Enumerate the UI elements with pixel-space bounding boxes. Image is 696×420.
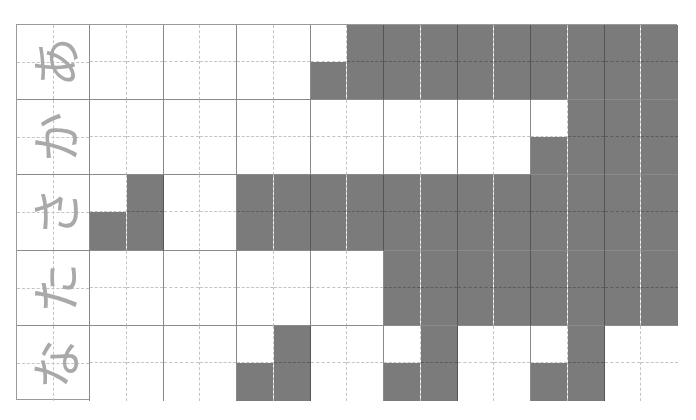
grid-cell <box>568 100 605 175</box>
shaded-subcell <box>531 175 567 212</box>
blank-subcell <box>274 288 310 325</box>
shaded-subcell <box>274 212 310 249</box>
grid-cell <box>421 175 458 250</box>
shaded-subcell <box>641 100 678 137</box>
blank-subcell <box>237 288 273 325</box>
grid-cell <box>311 251 348 326</box>
shaded-subcell <box>311 175 347 212</box>
shaded-subcell <box>347 62 383 99</box>
shaded-subcell <box>641 62 678 99</box>
blank-subcell <box>494 363 530 401</box>
grid-cell <box>458 25 495 100</box>
blank-subcell <box>164 288 200 325</box>
shaded-subcell <box>568 212 604 249</box>
grid-cell <box>531 175 568 250</box>
blank-subcell <box>458 326 494 364</box>
grid-cell <box>127 175 164 250</box>
blank-subcell <box>237 100 273 137</box>
blank-subcell <box>127 100 163 137</box>
grid-cell <box>347 100 384 175</box>
grid-cell <box>641 25 678 100</box>
blank-subcell <box>311 25 347 62</box>
blank-subcell <box>384 100 420 137</box>
shaded-subcell <box>384 288 420 325</box>
blank-subcell <box>200 25 236 62</box>
shaded-subcell <box>127 175 163 212</box>
grid-cell <box>458 175 495 250</box>
grid-cell <box>237 251 274 326</box>
shaded-subcell <box>605 212 641 249</box>
grid-cell <box>311 100 348 175</box>
blank-subcell <box>311 251 347 288</box>
blank-subcell <box>200 212 236 249</box>
blank-subcell <box>164 25 200 62</box>
grid-cell <box>90 251 127 326</box>
grid-cell <box>531 25 568 100</box>
blank-subcell <box>90 363 126 401</box>
shaded-subcell <box>384 212 420 249</box>
grid-cell <box>421 251 458 326</box>
grid-cell <box>384 175 421 250</box>
blank-subcell <box>90 100 126 137</box>
shaded-subcell <box>237 175 273 212</box>
grid-cell <box>237 326 274 401</box>
blank-subcell <box>127 288 163 325</box>
blank-subcell <box>384 137 420 174</box>
blank-subcell <box>200 363 236 401</box>
shaded-subcell <box>347 175 383 212</box>
shaded-subcell <box>494 251 530 288</box>
shaded-subcell <box>531 251 567 288</box>
grid-cell <box>347 25 384 100</box>
grid-cell <box>531 326 568 401</box>
shaded-subcell <box>384 25 420 62</box>
shaded-subcell <box>458 62 494 99</box>
blank-subcell <box>531 100 567 137</box>
grid-cell <box>605 175 642 250</box>
shaded-subcell <box>568 62 604 99</box>
shaded-subcell <box>641 175 678 212</box>
grid-cell <box>90 175 127 250</box>
shaded-subcell <box>274 363 310 401</box>
shaded-subcell <box>347 25 383 62</box>
blank-subcell <box>605 326 641 364</box>
blank-subcell <box>90 62 126 99</box>
blank-subcell <box>274 100 310 137</box>
shaded-subcell <box>347 212 383 249</box>
blank-subcell <box>347 288 383 325</box>
grid-cell <box>421 100 458 175</box>
blank-subcell <box>347 326 383 364</box>
grid-cell <box>494 326 531 401</box>
grid-cell <box>568 251 605 326</box>
blank-subcell <box>311 288 347 325</box>
grid-cell <box>200 251 237 326</box>
shaded-subcell <box>531 137 567 174</box>
grid-cell <box>90 25 127 100</box>
blank-subcell <box>494 326 530 364</box>
grid-cell <box>347 326 384 401</box>
blank-subcell <box>164 326 200 364</box>
shaded-subcell <box>311 62 347 99</box>
shaded-subcell <box>421 251 457 288</box>
blank-subcell <box>200 251 236 288</box>
grid-cell <box>494 25 531 100</box>
grid-cell <box>311 175 348 250</box>
grid-cell <box>494 100 531 175</box>
blank-subcell <box>311 100 347 137</box>
blank-subcell <box>274 137 310 174</box>
shaded-subcell <box>458 25 494 62</box>
blank-subcell <box>237 137 273 174</box>
shaded-subcell <box>605 137 641 174</box>
grid-cell <box>164 175 201 250</box>
grid-cell <box>127 326 164 401</box>
row-label-cell: た <box>17 251 90 326</box>
shaded-subcell <box>311 212 347 249</box>
grid-cell <box>568 175 605 250</box>
row-label-cell: な <box>17 326 90 401</box>
blank-subcell <box>127 137 163 174</box>
shaded-subcell <box>421 363 457 401</box>
grid-cell <box>237 25 274 100</box>
grid-cell <box>384 326 421 401</box>
blank-subcell <box>164 175 200 212</box>
row-label-cell: か <box>17 100 90 175</box>
blank-subcell <box>127 251 163 288</box>
